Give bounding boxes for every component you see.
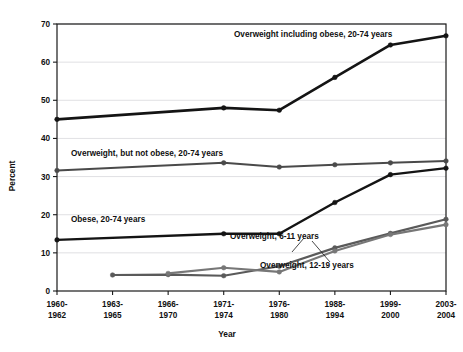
x-tick-label-1: 1963-1965 (102, 300, 123, 320)
y-axis-tick-labels: 010203040506070 (41, 20, 51, 296)
series-marker-4-1 (221, 265, 226, 270)
series-marker-2-3 (333, 200, 338, 205)
series-line-1 (57, 161, 446, 171)
series-marker-0-5 (444, 34, 449, 39)
series-line-0 (57, 36, 446, 120)
axis-ticks (53, 24, 446, 295)
series-marker-1-3 (333, 162, 338, 167)
series-marker-0-0 (55, 117, 60, 122)
series-annotation-1: Overweight, but not obese, 20-74 years (71, 149, 223, 158)
chart-container: 010203040506070 1960-19621963-19651966-1… (0, 0, 463, 352)
x-tick-label-0: 1960-1962 (47, 300, 68, 320)
series-line-2 (57, 168, 446, 240)
series-annotation-3: Overweight, 6-11 years (230, 232, 319, 241)
series-marker-2-4 (388, 172, 393, 177)
series-marker-2-0 (55, 238, 60, 243)
series-marker-3-6 (444, 217, 449, 222)
series-marker-1-2 (277, 165, 282, 170)
series-marker-1-4 (388, 161, 393, 166)
y-tick-label-50: 50 (41, 96, 51, 105)
y-tick-label-20: 20 (41, 211, 51, 220)
y-tick-label-70: 70 (41, 20, 51, 29)
x-tick-label-3: 1971-1974 (213, 300, 234, 320)
series-marker-1-1 (221, 161, 226, 166)
series-marker-4-4 (388, 232, 393, 237)
x-axis-tick-labels: 1960-19621963-19651966-19701971-19741976… (47, 300, 457, 320)
x-tick-label-2: 1966-1970 (158, 300, 179, 320)
x-tick-label-6: 1999-2000 (380, 300, 401, 320)
series-marker-4-0 (166, 271, 171, 276)
series-annotations: Overweight including obese, 20-74 yearsO… (71, 30, 393, 270)
y-tick-label-10: 10 (41, 249, 51, 258)
series-marker-0-4 (388, 43, 393, 48)
series-marker-3-0 (110, 273, 115, 278)
y-tick-label-30: 30 (41, 173, 51, 182)
series-marker-4-5 (444, 222, 449, 227)
series-marker-4-2 (277, 270, 282, 275)
chart-canvas: 010203040506070 1960-19621963-19651966-1… (0, 0, 463, 352)
series-marker-1-5 (444, 159, 449, 164)
series-marker-4-3 (333, 249, 338, 254)
y-tick-label-0: 0 (45, 287, 50, 296)
series-marker-0-3 (333, 75, 338, 80)
series-marker-0-1 (221, 106, 226, 111)
y-tick-label-40: 40 (41, 134, 51, 143)
x-tick-label-5: 1988-1994 (324, 300, 345, 320)
x-axis-title: Year (218, 329, 236, 339)
series-marker-2-1 (221, 231, 226, 236)
annotation-leader-lines (292, 238, 330, 262)
y-tick-label-60: 60 (41, 58, 51, 67)
series-marker-3-2 (221, 273, 226, 278)
series-marker-1-0 (55, 168, 60, 173)
series-annotation-2: Obese, 20-74 years (71, 215, 146, 224)
y-axis-title: Percent (7, 160, 17, 191)
series-annotation-0: Overweight including obese, 20-74 years (234, 30, 393, 39)
x-tick-label-4: 1976-1980 (269, 300, 290, 320)
series-marker-0-2 (277, 108, 282, 113)
series-annotation-4: Overweight, 12-19 years (260, 261, 354, 270)
series-marker-2-5 (444, 166, 449, 171)
x-tick-label-7: 2003-2004 (436, 300, 457, 320)
